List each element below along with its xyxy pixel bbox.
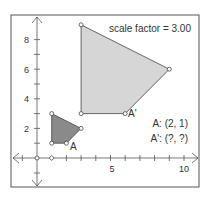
A-coordinates-label: A: (2, 1)	[152, 118, 188, 129]
original-vertex-A[interactable]	[64, 141, 68, 145]
Aprime-coordinates-label: A': (?, ?)	[151, 133, 188, 144]
image-vertex[interactable]	[79, 112, 83, 116]
y-tick-label-4: 4	[24, 94, 29, 104]
original-vertex[interactable]	[50, 112, 54, 116]
y-tick-label-6: 6	[24, 65, 29, 75]
original-vertex[interactable]	[79, 126, 83, 130]
origin-point[interactable]	[35, 156, 39, 160]
image-vertex[interactable]	[167, 67, 171, 71]
y-tick-label-2: 2	[24, 124, 29, 134]
coordinate-plane: 5 10 2 4 6 8 A A' scale factor = 3.00 A:…	[0, 0, 211, 197]
x-tick-label-5: 5	[109, 164, 114, 174]
x-tick-label-10: 10	[179, 164, 189, 174]
vertex-label-A: A	[70, 141, 77, 152]
image-vertex[interactable]	[79, 23, 83, 27]
y-tick-label-8: 8	[24, 35, 29, 45]
original-vertex[interactable]	[50, 141, 54, 145]
scale-factor-label: scale factor = 3.00	[109, 23, 191, 34]
vertex-label-Aprime: A'	[128, 108, 137, 119]
image-vertex-Aprime[interactable]	[123, 112, 127, 116]
